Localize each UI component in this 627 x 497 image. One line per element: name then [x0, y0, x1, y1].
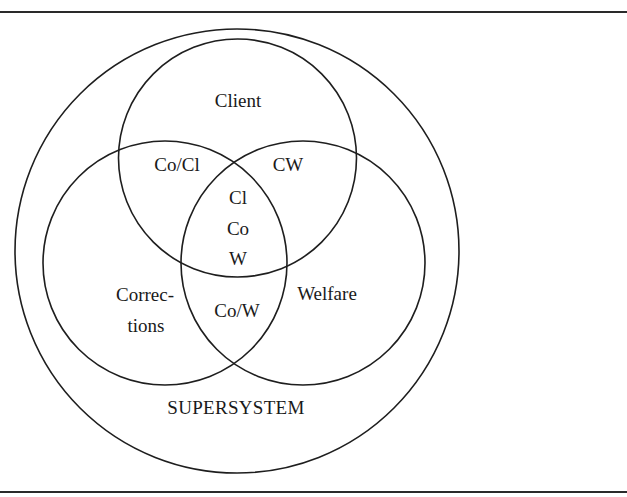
cw-label: CW	[273, 154, 304, 175]
supersystem-label: SUPERSYSTEM	[167, 397, 304, 418]
center-label-co: Co	[227, 218, 249, 239]
corrections-label-line2: tions	[128, 315, 165, 336]
venn-diagram: Client Co/Cl CW Cl Co W Correc- tions Co…	[0, 0, 627, 497]
welfare-circle	[181, 141, 425, 385]
corrections-circle	[43, 141, 287, 385]
corrections-label-line1: Correc-	[116, 284, 174, 305]
center-label-cl: Cl	[229, 187, 247, 208]
bottom-rule	[0, 491, 627, 493]
co-w-label: Co/W	[214, 300, 259, 321]
welfare-label: Welfare	[297, 283, 357, 304]
co-cl-label: Co/Cl	[154, 154, 199, 175]
center-label-w: W	[229, 248, 247, 269]
client-label: Client	[215, 90, 262, 111]
